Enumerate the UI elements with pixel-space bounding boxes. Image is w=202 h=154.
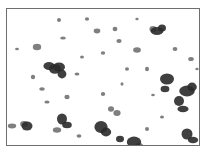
particle-cluster: [145, 67, 149, 71]
particle-cluster: [113, 110, 120, 116]
particle-cluster: [161, 86, 170, 92]
particle-cluster: [160, 74, 174, 85]
particle-cluster: [31, 75, 35, 79]
particle-cluster: [173, 47, 178, 51]
particle-cluster: [20, 121, 28, 127]
particle-cluster: [133, 47, 141, 52]
particle-cluster: [58, 70, 67, 79]
particle-cluster: [77, 134, 82, 138]
particle-cluster: [113, 27, 118, 31]
particle-cluster: [62, 122, 72, 128]
particle-cluster: [158, 24, 166, 31]
particle-clusters: [7, 9, 200, 146]
particle-cluster: [101, 51, 105, 55]
particle-cluster: [85, 17, 89, 20]
particle-cluster: [135, 18, 138, 20]
particle-cluster: [116, 39, 121, 43]
micrograph-frame: [6, 8, 200, 146]
particle-cluster: [188, 137, 198, 143]
particle-cluster: [53, 127, 61, 132]
particle-cluster: [75, 72, 80, 75]
particle-cluster: [101, 92, 105, 96]
particle-cluster: [15, 48, 19, 51]
particle-cluster: [108, 106, 114, 111]
particle-cluster: [80, 56, 84, 59]
particle-cluster: [149, 26, 156, 32]
particle-cluster: [145, 127, 149, 131]
particle-cluster: [8, 124, 16, 129]
particle-cluster: [177, 106, 188, 112]
particle-cluster: [125, 67, 129, 71]
particle-cluster: [174, 96, 184, 106]
particle-cluster: [60, 36, 66, 39]
particle-cluster: [64, 95, 69, 99]
particle-cluster: [160, 115, 164, 118]
particle-cluster: [33, 44, 41, 51]
particle-cluster: [121, 82, 124, 85]
particle-cluster: [44, 100, 49, 103]
particle-cluster: [101, 128, 111, 137]
particle-cluster: [39, 87, 45, 91]
particle-cluster: [151, 94, 155, 96]
particle-cluster: [188, 57, 194, 61]
particle-cluster: [116, 136, 124, 142]
particle-cluster: [94, 29, 101, 34]
particle-cluster: [57, 18, 61, 22]
particle-cluster: [195, 68, 198, 71]
particle-cluster: [43, 62, 54, 70]
particle-cluster: [187, 83, 197, 92]
